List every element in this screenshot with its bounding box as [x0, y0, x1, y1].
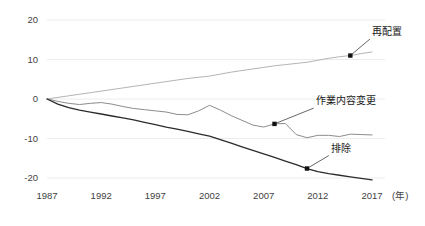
y-tick-label: 10 [27, 54, 38, 65]
data-marker-2 [305, 166, 309, 170]
x-tick-label: 2002 [199, 190, 220, 201]
x-axis-tick-labels: 1987199219972002200720122017 [36, 190, 382, 201]
leader-line-1 [275, 108, 314, 124]
x-tick-label: 1997 [145, 190, 166, 201]
series-line-2 [47, 99, 372, 180]
x-axis-unit: (年) [392, 190, 408, 201]
y-axis-tick-labels: 20100-10-20 [24, 14, 38, 183]
leader-line-2 [307, 156, 329, 169]
series-label-2: 排除 [331, 142, 351, 154]
y-tick-label: 20 [27, 14, 38, 25]
data-marker-1 [272, 122, 276, 126]
line-chart: 20100-10-20 1987199219972002200720122017… [0, 0, 425, 226]
x-tick-label: 1987 [36, 190, 57, 201]
series-label-0: 再配置 [372, 26, 402, 37]
x-tick-label: 2012 [307, 190, 328, 201]
y-tick-label: -10 [24, 133, 38, 144]
y-tick-label: 0 [33, 93, 38, 104]
x-tick-label: 2017 [361, 190, 382, 201]
chart-canvas: 20100-10-20 1987199219972002200720122017… [0, 0, 425, 226]
x-tick-label: 2007 [253, 190, 274, 201]
x-axis-unit-label: (年) [392, 190, 408, 201]
y-tick-label: -20 [24, 172, 38, 183]
data-marker-0 [348, 53, 352, 57]
series-lines [47, 52, 372, 180]
x-tick-label: 1992 [91, 190, 112, 201]
series-label-1: 作業内容変更 [316, 94, 376, 106]
